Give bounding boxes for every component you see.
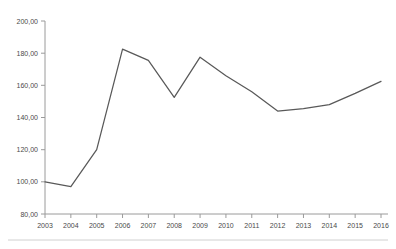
chart-canvas: 200,00 180,00 160,00 140,00 120,00 100,0… [0, 0, 396, 249]
x-tick-label: 2014 [322, 222, 338, 229]
x-tick-label: 2011 [244, 222, 259, 229]
x-tick-label: 2008 [166, 222, 182, 229]
x-tick-label: 2013 [296, 222, 312, 229]
x-tick-label: 2005 [89, 222, 105, 229]
y-axis-labels: 200,00 180,00 160,00 140,00 120,00 100,0… [17, 18, 39, 218]
x-tick-label: 2015 [347, 222, 363, 229]
y-tick-label: 140,00 [17, 114, 39, 121]
y-tick-label: 180,00 [17, 50, 39, 57]
y-tick-label: 120,00 [17, 146, 39, 153]
x-tick-label: 2010 [218, 222, 234, 229]
y-tick-label: 80,00 [20, 211, 38, 218]
x-tick-label: 2009 [192, 222, 208, 229]
x-tick-label: 2007 [141, 222, 157, 229]
y-tick-label: 200,00 [17, 18, 39, 25]
x-tick-marks [45, 214, 381, 218]
line-chart: 200,00 180,00 160,00 140,00 120,00 100,0… [0, 0, 396, 249]
y-tick-label: 100,00 [17, 178, 39, 185]
x-axis-labels: 2003200420052006200720082009201020112012… [37, 222, 389, 229]
x-tick-label: 2003 [37, 222, 53, 229]
data-series-line [45, 49, 381, 187]
y-tick-marks [41, 21, 45, 214]
x-tick-label: 2012 [270, 222, 286, 229]
x-tick-label: 2016 [373, 222, 389, 229]
x-tick-label: 2004 [63, 222, 79, 229]
y-tick-label: 160,00 [17, 82, 39, 89]
x-tick-label: 2006 [115, 222, 131, 229]
